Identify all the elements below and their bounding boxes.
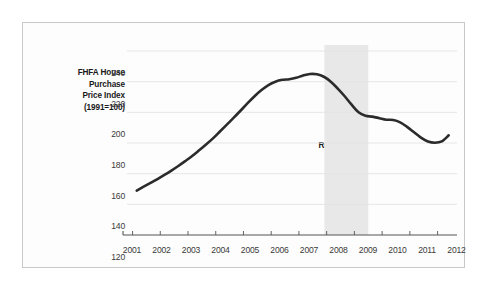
- axis-lines: [123, 231, 457, 235]
- x-tick-marks: [133, 231, 438, 235]
- plot-area: [23, 23, 466, 269]
- chart-frame: FHFA House Purchase Price Index (1991=10…: [22, 22, 465, 268]
- series-line-fhfa-index: [137, 74, 449, 191]
- recession-shaded-band: [324, 45, 368, 235]
